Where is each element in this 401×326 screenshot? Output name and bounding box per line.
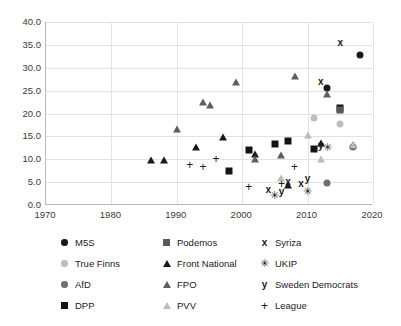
data-point: +: [245, 181, 252, 193]
data-point: [311, 145, 318, 152]
y-axis-tick-label: 35.0: [3, 40, 41, 50]
gridline-vertical: [177, 22, 178, 204]
legend-item-label: Front National: [177, 259, 237, 269]
legend-item[interactable]: Front National: [160, 253, 258, 274]
data-point: [192, 143, 200, 150]
legend-item-label: DPP: [75, 301, 95, 311]
data-point: [147, 157, 155, 164]
data-point: y: [305, 174, 311, 184]
data-point: [232, 78, 240, 85]
data-point: +: [291, 161, 298, 173]
data-point: +: [186, 159, 193, 171]
legend-item-label: Sweden Democrats: [275, 280, 358, 290]
data-point: [356, 52, 363, 59]
data-point: [304, 131, 312, 138]
legend-marker-circle-icon: [58, 278, 71, 291]
legend-item[interactable]: PVV: [160, 295, 258, 316]
data-point: [271, 141, 278, 148]
data-point: [251, 156, 259, 163]
legend-column-3: xSyriza✳UKIPySweden Democrats+League: [258, 232, 401, 316]
gridline-vertical: [373, 22, 374, 204]
x-axis-tick-label: 1970: [22, 210, 68, 220]
legend-item[interactable]: xSyriza: [258, 232, 401, 253]
legend-marker-y-icon: y: [258, 278, 271, 291]
data-point: x: [285, 177, 291, 187]
data-point: x: [318, 77, 324, 87]
legend-marker-circle-icon: [58, 236, 71, 249]
legend-item-label: Podemos: [177, 238, 217, 248]
legend-marker-triangle-icon: [160, 299, 173, 312]
y-axis-tick-label: 20.0: [3, 109, 41, 119]
legend-item[interactable]: ySweden Democrats: [258, 274, 401, 295]
scatter-chart: xxxxx✳✳✳yyy++++++ 0.05.010.015.020.025.0…: [0, 0, 401, 326]
data-point: +: [199, 161, 206, 173]
gridline-horizontal: [46, 68, 372, 69]
data-point: ✳: [323, 142, 332, 153]
y-axis-tick-label: 10.0: [3, 154, 41, 164]
legend-item-label: AfD: [75, 280, 91, 290]
y-axis-tick-label: 25.0: [3, 86, 41, 96]
legend-item-label: PVV: [177, 301, 196, 311]
data-point: [219, 133, 227, 140]
gridline-horizontal: [46, 114, 372, 115]
data-point: +: [213, 153, 220, 165]
x-axis-tick-label: 2020: [349, 210, 395, 220]
data-point: y: [318, 141, 324, 151]
gridline-horizontal: [46, 22, 372, 23]
y-axis-tick-label: 5.0: [3, 177, 41, 187]
data-point: [349, 142, 357, 149]
data-point: [226, 168, 233, 175]
legend-marker-triangle-icon: [160, 257, 173, 270]
legend-item[interactable]: Podemos: [160, 232, 258, 253]
y-axis-tick-label: 15.0: [3, 131, 41, 141]
gridline-horizontal: [46, 45, 372, 46]
data-point: [160, 157, 168, 164]
legend-marker-x-icon: x: [258, 236, 271, 249]
data-point: [284, 138, 291, 145]
data-point: [311, 114, 318, 121]
legend-item-label: True Finns: [75, 259, 120, 269]
x-axis-tick-label: 2000: [218, 210, 264, 220]
gridline-horizontal: [46, 136, 372, 137]
legend-column-1: M5STrue FinnsAfDDPP: [58, 232, 160, 316]
data-point: [277, 151, 285, 158]
data-point: [173, 126, 181, 133]
gridline-vertical: [111, 22, 112, 204]
data-point: [337, 107, 344, 114]
y-axis-tick-label: 30.0: [3, 63, 41, 73]
legend-item[interactable]: AfD: [58, 274, 160, 295]
legend-item[interactable]: M5S: [58, 232, 160, 253]
legend-item-label: M5S: [75, 238, 95, 248]
legend-item-label: FPO: [177, 280, 197, 290]
data-point: +: [278, 178, 285, 190]
x-axis-tick-label: 2010: [284, 210, 330, 220]
legend-item[interactable]: ✳UKIP: [258, 253, 401, 274]
data-point: [317, 156, 325, 163]
plot-area: xxxxx✳✳✳yyy++++++: [45, 22, 372, 205]
legend-item[interactable]: True Finns: [58, 253, 160, 274]
data-point: [323, 90, 331, 97]
data-point: [337, 121, 344, 128]
x-axis-tick-label: 1980: [87, 210, 133, 220]
legend-item[interactable]: +League: [258, 295, 401, 316]
legend-item[interactable]: DPP: [58, 295, 160, 316]
data-point: [291, 72, 299, 79]
x-axis-tick-label: 1990: [153, 210, 199, 220]
legend-item[interactable]: FPO: [160, 274, 258, 295]
data-point: [206, 101, 214, 108]
legend-item-label: League: [275, 301, 307, 311]
legend-column-2: PodemosFront NationalFPOPVV: [160, 232, 258, 316]
legend-marker-triangle-icon: [160, 278, 173, 291]
legend-marker-plus-icon: +: [258, 299, 271, 312]
legend-marker-square-icon: [58, 299, 71, 312]
legend-item-label: UKIP: [275, 259, 297, 269]
chart-legend: M5STrue FinnsAfDDPP PodemosFront Nationa…: [0, 232, 401, 326]
legend-item-label: Syriza: [275, 238, 301, 248]
legend-marker-star-icon: ✳: [258, 257, 271, 270]
data-point: ✳: [303, 185, 312, 196]
data-point: [324, 180, 331, 187]
legend-marker-circle-icon: [58, 257, 71, 270]
gridline-vertical: [242, 22, 243, 204]
legend-marker-square-icon: [160, 236, 173, 249]
y-axis-tick-label: 40.0: [3, 17, 41, 27]
